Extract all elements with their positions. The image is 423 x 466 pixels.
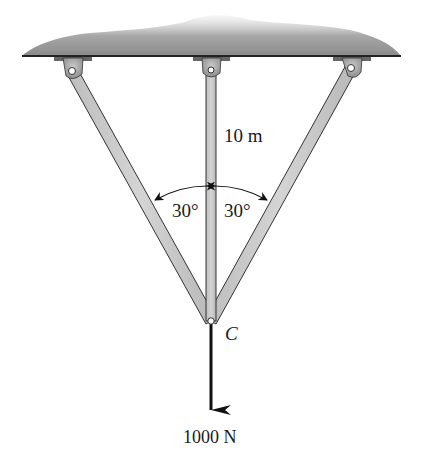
ceiling-shading <box>22 15 401 56</box>
pin-icon <box>348 65 355 72</box>
pin-c-label: C <box>225 323 238 344</box>
bars <box>67 65 356 324</box>
pin-c-icon <box>208 318 214 324</box>
angle-arc-right <box>215 186 267 200</box>
pin-icon <box>208 67 214 73</box>
length-label: 10 m <box>224 125 263 146</box>
ceiling <box>22 15 401 56</box>
bar-left <box>67 68 216 324</box>
angle-right-label: 30° <box>224 200 251 221</box>
bar-right <box>206 65 356 324</box>
support-right <box>333 57 371 77</box>
truss-diagram: 10 m 30° 30° C 1000 N <box>0 0 423 466</box>
angle-arc-left <box>155 186 207 200</box>
bar-center <box>206 70 216 321</box>
pin-icon <box>69 68 76 75</box>
angle-left-label: 30° <box>172 200 199 221</box>
load-label: 1000 N <box>183 427 237 447</box>
support-left <box>54 57 92 79</box>
support-center <box>193 57 230 77</box>
